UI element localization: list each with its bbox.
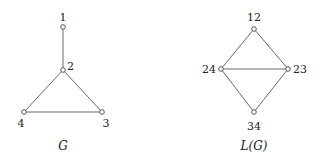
- diagram-canvas: 1 2 3 4 G 12 24 23 34 L(G): [0, 0, 322, 160]
- node-1: [61, 25, 66, 30]
- node-label-3: 3: [103, 117, 110, 130]
- node-label-12: 12: [247, 11, 261, 24]
- node-2: [61, 68, 66, 73]
- graph-caption-lg: L(G): [240, 139, 268, 153]
- node-label-34: 34: [247, 120, 261, 133]
- node-label-4: 4: [18, 117, 25, 130]
- node-label-23: 23: [293, 63, 307, 76]
- edge-12-23: [254, 29, 288, 69]
- graph-caption-g: G: [58, 139, 68, 153]
- node-3: [100, 110, 105, 115]
- edge-2-3: [63, 70, 102, 112]
- node-label-24: 24: [202, 63, 216, 76]
- edge-24-34: [221, 69, 254, 112]
- node-23: [286, 67, 291, 72]
- edge-23-34: [254, 69, 288, 112]
- node-label-1: 1: [60, 11, 67, 24]
- graph-lg: 12 24 23 34 L(G): [202, 11, 307, 153]
- node-4: [22, 110, 27, 115]
- graph-g: 1 2 3 4 G: [18, 11, 110, 153]
- node-12: [252, 27, 257, 32]
- node-label-2: 2: [67, 60, 74, 73]
- edge-12-24: [221, 29, 254, 69]
- edge-2-4: [24, 70, 63, 112]
- node-24: [219, 67, 224, 72]
- node-34: [252, 110, 257, 115]
